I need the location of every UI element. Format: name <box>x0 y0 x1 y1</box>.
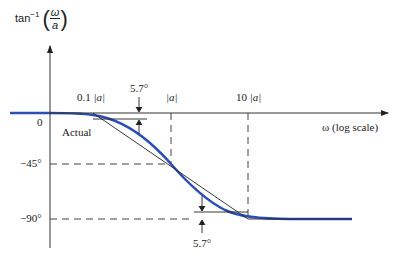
x-tick-a: |a| <box>166 92 178 103</box>
x-axis-label: ω (log scale) <box>322 122 378 133</box>
y-axis-title: tan−1 (ωa) <box>15 6 68 31</box>
tick-num: 10 <box>236 91 247 103</box>
title-numerator: ω <box>50 6 61 19</box>
x-tick-10a: 10 |a| <box>236 92 261 103</box>
tick-var: |a| <box>94 91 106 103</box>
y-tick-minus45: −45° <box>20 158 42 169</box>
y-tick-0: 0 <box>37 117 43 128</box>
title-superscript: −1 <box>30 10 39 19</box>
title-prefix: tan <box>15 12 30 24</box>
y-tick-minus90: −90° <box>20 213 42 224</box>
x-tick-0.1a: 0.1 |a| <box>77 92 105 103</box>
title-denominator: a <box>52 19 58 31</box>
bottom-deviation-label: 5.7° <box>193 238 211 249</box>
top-deviation-label: 5.7° <box>130 83 148 94</box>
title-close-paren: ) <box>60 6 67 31</box>
actual-label: Actual <box>62 127 91 138</box>
tick-var: |a| <box>166 91 178 103</box>
tick-var: |a| <box>250 91 262 103</box>
title-fraction: ωa <box>50 6 61 31</box>
tick-num: 0.1 <box>77 91 91 103</box>
title-open-paren: ( <box>42 6 49 31</box>
